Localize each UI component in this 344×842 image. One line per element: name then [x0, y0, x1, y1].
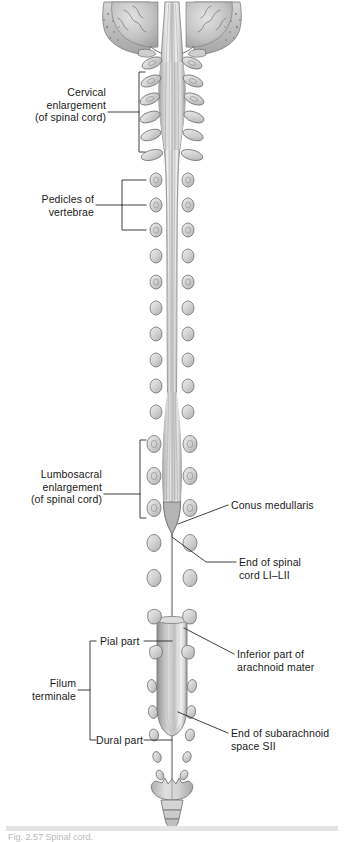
label-lumbosacral-enlargement: Lumbosacralenlargement(of spinal cord): [8, 468, 102, 506]
label-conus-medullaris: Conus medullaris: [231, 499, 341, 512]
pedicle: [138, 109, 161, 126]
pedicle: [150, 301, 162, 315]
dural-sac-group: [157, 616, 187, 736]
arachnoid-mater: [175, 621, 185, 730]
pedicle: [155, 769, 166, 781]
pedicle: [182, 249, 194, 263]
coccyx-segment-1: [161, 800, 183, 810]
pedicle: [150, 275, 162, 289]
occipital-condyle-left: [138, 49, 156, 57]
figure-caption: Fig. 2.57 Spinal cord.: [8, 832, 338, 842]
pedicle: [185, 728, 196, 741]
pedicle: [147, 468, 161, 485]
label-lumbosacral-line1: Lumbosacral: [41, 468, 102, 480]
pedicle: [147, 570, 161, 587]
end-of-cord-leader: [172, 537, 236, 562]
pedicle: [147, 535, 161, 552]
label-inferior-arachnoid-mater: Inferior part ofarachnoid mater: [237, 648, 343, 673]
pedicle: [182, 379, 194, 393]
label-pial-part: Pial part: [100, 635, 152, 648]
pedicle: [181, 127, 204, 143]
pedicle: [147, 500, 161, 517]
label-dural-part-text: Dural part: [96, 734, 143, 746]
pedicle: [147, 436, 161, 453]
label-pial-part-text: Pial part: [100, 635, 139, 647]
occipital-condyle-right: [188, 49, 206, 57]
pedicle: [182, 353, 194, 367]
pedicle: [139, 127, 162, 143]
label-pedicles-line2: vertebrae: [49, 206, 94, 218]
pedicle: [182, 301, 194, 315]
pedicle: [182, 109, 205, 126]
pedicle: [179, 769, 190, 781]
label-end-of-cord-line1: End of spinal: [239, 556, 301, 568]
pedicle: [183, 609, 197, 624]
conus-medullaris-tip: [163, 502, 180, 536]
spinal-cord-figure: [0, 0, 344, 842]
pedicle: [150, 353, 162, 367]
subarachnoid-leader: [178, 712, 228, 733]
pedicle: [182, 645, 195, 659]
label-end-of-spinal-cord: End of spinalcord LI–LII: [239, 556, 343, 581]
pedicle: [148, 609, 162, 624]
pedicle: [182, 173, 194, 187]
caption-rule: [6, 826, 338, 831]
pedicle: [183, 500, 197, 517]
filum-bracket: [90, 641, 96, 740]
label-lumbosacral-line2: enlargement: [43, 481, 102, 493]
pedicle: [182, 90, 205, 107]
pedicle: [183, 436, 197, 453]
pedicle: [146, 679, 157, 693]
pedicle: [182, 223, 194, 237]
label-filum-line1: Filum: [50, 677, 76, 689]
label-conus-line1: Conus medullaris: [231, 499, 314, 511]
pedicles-bracket: [122, 180, 146, 230]
pedicle: [150, 198, 162, 212]
label-dural-part: Dural part: [96, 734, 152, 747]
label-filum-terminale: Filumterminale: [2, 677, 76, 702]
lumbosacral-bracket: [140, 440, 146, 518]
label-arachnoid-line2: arachnoid mater: [237, 661, 314, 673]
label-cervical-enlargement-line3: (of spinal cord): [35, 111, 106, 123]
pedicle: [140, 147, 164, 162]
pedicle: [182, 327, 194, 341]
pedicle: [150, 405, 162, 419]
pedicle: [183, 535, 197, 552]
label-end-of-cord-line2: cord LI–LII: [239, 569, 290, 581]
label-subarachnoid-line1: End of subarachnoid: [231, 727, 329, 739]
pedicle: [181, 751, 192, 764]
pedicle: [182, 198, 194, 212]
pedicle: [150, 379, 162, 393]
pedicle: [150, 249, 162, 263]
label-pedicles-line1: Pedicles of: [42, 193, 94, 205]
spinal-cord-group: [158, 2, 186, 536]
label-pedicles-of-vertebrae: Pedicles ofvertebrae: [6, 193, 94, 218]
label-filum-line2: terminale: [32, 690, 76, 702]
label-cervical-enlargement-line1: Cervical: [67, 86, 106, 98]
label-lumbosacral-line3: (of spinal cord): [31, 493, 102, 505]
pedicle: [150, 327, 162, 341]
pedicle: [180, 147, 204, 162]
pedicle: [151, 751, 162, 764]
pedicle: [183, 468, 197, 485]
label-cervical-enlargement: Cervicalenlargement(of spinal cord): [10, 86, 106, 124]
label-cervical-enlargement-line2: enlargement: [47, 99, 106, 111]
coccyx-group: [151, 778, 193, 828]
label-arachnoid-line1: Inferior part of: [237, 648, 304, 660]
pedicle: [150, 173, 162, 187]
coccyx-segment-2: [163, 810, 181, 819]
pedicle: [150, 223, 162, 237]
pedicle: [182, 405, 194, 419]
pedicle: [138, 90, 161, 107]
pedicle: [186, 679, 197, 693]
pedicle: [182, 275, 194, 289]
pedicle: [183, 570, 197, 587]
label-subarachnoid-line2: space SII: [231, 740, 276, 752]
label-end-of-subarachnoid-space: End of subarachnoidspace SII: [231, 727, 343, 752]
